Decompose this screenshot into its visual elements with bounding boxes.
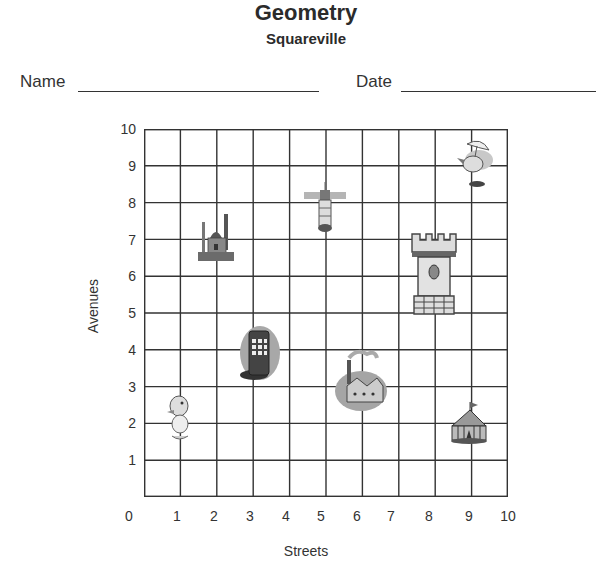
circus-tent-icon [446, 400, 492, 446]
lighthouse-icon [302, 180, 348, 234]
x-tick-9: 9 [457, 508, 481, 524]
x-tick-10: 10 [496, 508, 520, 524]
page-subtitle: Squareville [0, 30, 612, 47]
y-tick-9: 9 [112, 158, 136, 174]
x-tick-6: 6 [345, 508, 369, 524]
y-tick-7: 7 [112, 232, 136, 248]
y-tick-4: 4 [112, 342, 136, 358]
duck-icon [162, 392, 196, 444]
date-field[interactable] [401, 91, 596, 92]
y-axis-label: Avenues [85, 271, 101, 341]
y-tick-6: 6 [112, 268, 136, 284]
y-tick-2: 2 [112, 415, 136, 431]
y-tick-10: 10 [112, 121, 136, 137]
factory-icon [333, 346, 391, 414]
x-tick-3: 3 [238, 508, 262, 524]
x-tick-2: 2 [202, 508, 226, 524]
date-label: Date [356, 72, 392, 92]
y-tick-1: 1 [112, 452, 136, 468]
x-axis-label: Streets [0, 543, 612, 559]
y-tick-3: 3 [112, 379, 136, 395]
x-tick-0: 0 [117, 508, 141, 524]
x-tick-7: 7 [379, 508, 403, 524]
x-tick-8: 8 [417, 508, 441, 524]
phone-booth-icon [236, 325, 284, 383]
x-tick-4: 4 [274, 508, 298, 524]
x-tick-1: 1 [165, 508, 189, 524]
page-title: Geometry [0, 0, 612, 26]
tower-icon [410, 230, 458, 318]
y-tick-5: 5 [112, 305, 136, 321]
name-label: Name [20, 72, 65, 92]
name-field[interactable] [78, 91, 319, 92]
duck-umbrella-icon [449, 138, 495, 192]
castle-icon [196, 208, 238, 264]
y-tick-8: 8 [112, 195, 136, 211]
x-tick-5: 5 [309, 508, 333, 524]
